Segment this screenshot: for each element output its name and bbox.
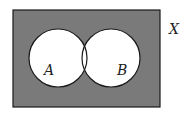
set-b-label: B (116, 62, 127, 78)
set-a-label: A (42, 62, 54, 78)
universe-label: X (168, 21, 180, 37)
venn-diagram: A B X (0, 0, 190, 114)
